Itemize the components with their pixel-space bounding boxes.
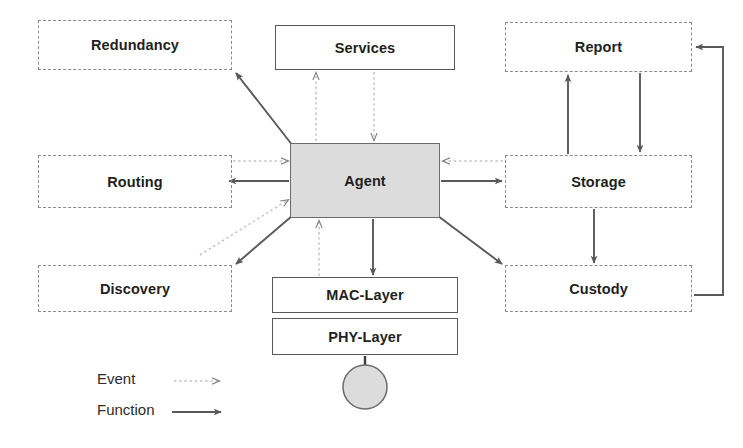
node-routing-label: Routing [107,174,162,190]
node-redundancy-label: Redundancy [91,37,179,53]
node-agent[interactable]: Agent [290,143,440,218]
edge-agent-to-custody [438,216,502,264]
node-services-label: Services [335,40,395,56]
node-storage-label: Storage [571,174,626,190]
legend-event-label: Event [97,370,135,387]
node-services[interactable]: Services [275,25,455,70]
node-redundancy[interactable]: Redundancy [38,20,232,70]
node-mac-layer-label: MAC-Layer [326,287,403,303]
node-custody-label: Custody [569,281,628,297]
node-discovery-label: Discovery [100,281,170,297]
edge-custody-to-report [694,47,723,295]
radio-node-icon [337,359,393,415]
node-storage[interactable]: Storage [505,155,692,208]
node-routing[interactable]: Routing [38,155,232,208]
node-phy-layer[interactable]: PHY-Layer [272,318,458,355]
edge-discovery-to-agent [200,200,288,255]
node-custody[interactable]: Custody [505,265,692,312]
node-report[interactable]: Report [505,22,692,72]
node-discovery[interactable]: Discovery [38,265,232,312]
node-phy-layer-label: PHY-Layer [328,329,401,345]
diagram-canvas: Redundancy Services Report Routing Agent… [0,0,743,448]
legend-function-label: Function [97,401,155,418]
node-report-label: Report [575,39,622,55]
node-mac-layer[interactable]: MAC-Layer [272,277,458,313]
edge-agent-to-redundancy [236,73,293,146]
node-agent-label: Agent [344,173,386,189]
edge-agent-to-discovery [236,216,292,264]
